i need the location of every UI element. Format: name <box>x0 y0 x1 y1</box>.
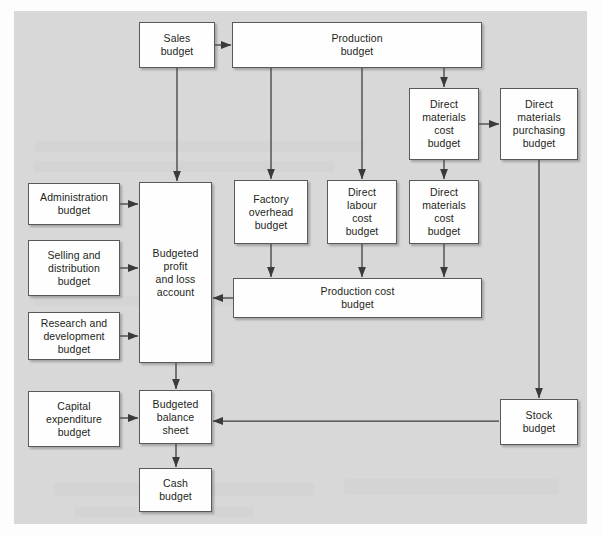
node-selling: Selling and distribution budget <box>28 240 120 296</box>
node-production: Production budget <box>232 22 482 68</box>
node-label-dm_cost_mid: Direct materials cost budget <box>422 186 466 238</box>
node-profit_loss: Budgeted profit and loss account <box>139 182 212 363</box>
node-sales: Sales budget <box>139 22 215 68</box>
node-label-production_cost: Production cost budget <box>321 285 395 311</box>
node-dl_cost: Direct labour cost budget <box>327 180 397 244</box>
node-label-profit_loss: Budgeted profit and loss account <box>153 247 199 299</box>
node-label-selling: Selling and distribution budget <box>47 249 100 288</box>
node-balance_sheet: Budgeted balance sheet <box>139 390 212 444</box>
node-label-production: Production budget <box>331 32 382 58</box>
node-label-dm_purchasing: Direct materials purchasing budget <box>513 98 565 150</box>
node-cash: Cash budget <box>139 468 212 512</box>
node-capital: Capital expenditure budget <box>28 391 120 447</box>
node-production_cost: Production cost budget <box>233 278 482 318</box>
node-administration: Administration budget <box>28 183 120 225</box>
node-stock: Stock budget <box>500 399 578 445</box>
node-dm_purchasing: Direct materials purchasing budget <box>500 88 578 160</box>
node-dm_cost_top: Direct materials cost budget <box>409 88 479 160</box>
node-label-research: Research and development budget <box>41 317 108 356</box>
node-label-balance_sheet: Budgeted balance sheet <box>153 398 199 437</box>
node-label-dm_cost_top: Direct materials cost budget <box>422 98 466 150</box>
node-label-administration: Administration budget <box>40 191 108 217</box>
node-dm_cost_mid: Direct materials cost budget <box>409 180 479 244</box>
node-label-cash: Cash budget <box>159 477 192 503</box>
node-label-sales: Sales budget <box>161 32 194 58</box>
node-label-factory_overhead: Factory overhead budget <box>249 193 294 232</box>
node-label-dl_cost: Direct labour cost budget <box>346 186 379 238</box>
node-research: Research and development budget <box>28 312 120 360</box>
node-factory_overhead: Factory overhead budget <box>234 180 308 244</box>
node-label-capital: Capital expenditure budget <box>46 400 102 439</box>
figure-canvas: Sales budgetProduction budgetDirect mate… <box>0 0 602 535</box>
node-label-stock: Stock budget <box>523 409 556 435</box>
